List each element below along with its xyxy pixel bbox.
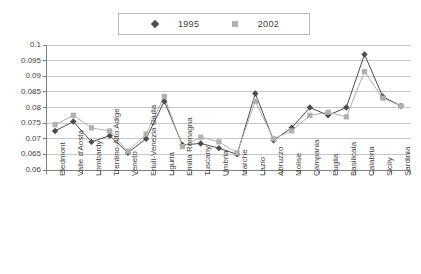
chart-container: 1995 2002 0.10.0950.090.0850.080.0750.07… (0, 0, 421, 274)
x-axis-tick-label: Sardinia (404, 147, 412, 176)
x-axis-tick-label: Basilicata (350, 142, 358, 176)
x-axis-tick-label: Lazio (259, 157, 267, 176)
y-axis-tick-label: 0.06 (7, 166, 41, 174)
y-axis-tick-label: 0.065 (7, 150, 41, 158)
x-axis-tick-label: Campania (313, 140, 321, 176)
x-axis-tick-label: Tuscany (204, 146, 212, 176)
y-axis-tick-label: 0.085 (7, 88, 41, 96)
x-axis-tick-label: Veneto (131, 151, 139, 176)
x-axis-tick-label: Puglia (332, 154, 340, 176)
x-axis-tick-label: Umbria (222, 150, 230, 176)
x-axis-tick-label: Friuli-Venezia Giulia (150, 105, 158, 176)
x-axis-tick-label: Trentino-Alto Adige (113, 108, 121, 176)
x-axis-tick-label: Lombardy (95, 140, 103, 176)
y-axis-tick-label: 0.07 (7, 135, 41, 143)
x-axis-tick-label: Calabria (368, 146, 376, 176)
x-axis-tick-label: Sicily (386, 157, 394, 176)
x-axis-tick-label: Emilia Romagna (186, 117, 194, 176)
y-axis-tick-label: 0.1 (7, 41, 41, 49)
x-axis-tick-label: Marche (241, 149, 249, 176)
y-axis-tick-label: 0.095 (7, 57, 41, 65)
x-axis-tick-label: Liguria (168, 152, 176, 176)
series-lines (55, 54, 401, 154)
y-axis-tick-label: 0.075 (7, 119, 41, 127)
plot-area (0, 0, 421, 274)
y-axis-tick-label: 0.08 (7, 104, 41, 112)
y-axis-tick-label: 0.09 (7, 72, 41, 80)
x-axis-tick-label: Abruzzo (277, 147, 285, 176)
x-axis-tick-label: Molise (295, 153, 303, 176)
x-axis-tick-label: Valle d'Aosta (77, 130, 85, 176)
x-axis-tick-label: Piedmont (59, 142, 67, 176)
